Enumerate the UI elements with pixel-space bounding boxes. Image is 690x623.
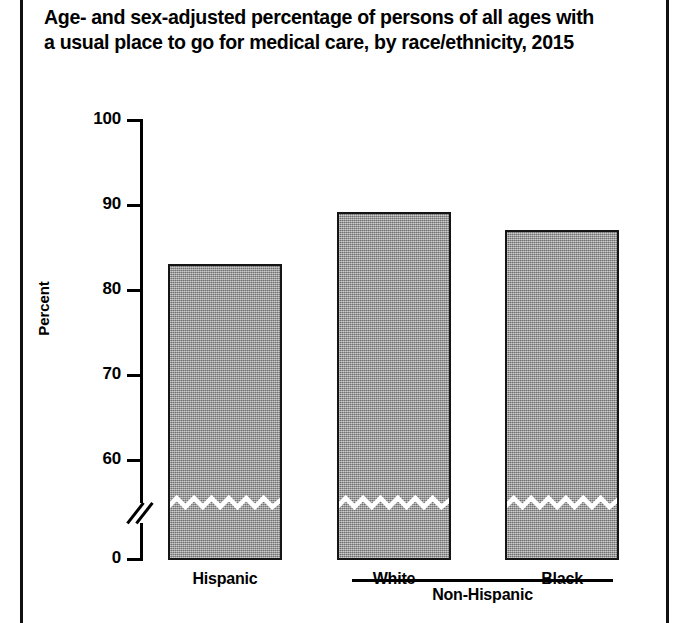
- y-tick-label-80: 80: [65, 279, 121, 299]
- y-tick-mark-80: [127, 289, 140, 292]
- y-tick-mark-0: [127, 558, 140, 561]
- y-tick-label-60: 60: [65, 449, 121, 469]
- group-label-non-hispanic: Non-Hispanic: [352, 586, 613, 604]
- y-axis-line: [140, 119, 143, 561]
- y-tick-label-0: 0: [65, 548, 121, 568]
- bar-break-zigzag-white: [337, 493, 451, 515]
- y-tick-label-90-wrap: 90: [59, 194, 121, 214]
- y-tick-label-60-wrap: 60: [59, 449, 121, 469]
- bar-black: [505, 230, 619, 560]
- y-tick-label-80-wrap: 80: [59, 279, 121, 299]
- y-tick-mark-100: [127, 119, 140, 122]
- y-tick-label-100: 100: [65, 109, 121, 129]
- y-axis-title: Percent: [35, 259, 52, 359]
- bar-hispanic: [168, 264, 282, 560]
- y-tick-label-0-wrap: 0: [59, 548, 121, 568]
- group-bracket-rule: [352, 579, 613, 582]
- y-tick-mark-70: [127, 374, 140, 377]
- bar-break-zigzag-black: [505, 493, 619, 515]
- y-tick-label-70-wrap: 70: [59, 364, 121, 384]
- y-tick-label-100-wrap: 100: [59, 109, 121, 129]
- x-label-hispanic: Hispanic: [165, 570, 285, 588]
- y-tick-mark-60: [127, 459, 140, 462]
- bar-white: [337, 212, 451, 560]
- y-tick-label-90: 90: [65, 194, 121, 214]
- y-axis-break-icon: [130, 498, 154, 528]
- y-tick-mark-90: [127, 204, 140, 207]
- bar-break-zigzag-hispanic: [168, 493, 282, 515]
- y-tick-label-70: 70: [65, 364, 121, 384]
- bar-chart-plot-area: 100 90 80 70 60 0 Percent Hispanic Whi: [0, 0, 690, 623]
